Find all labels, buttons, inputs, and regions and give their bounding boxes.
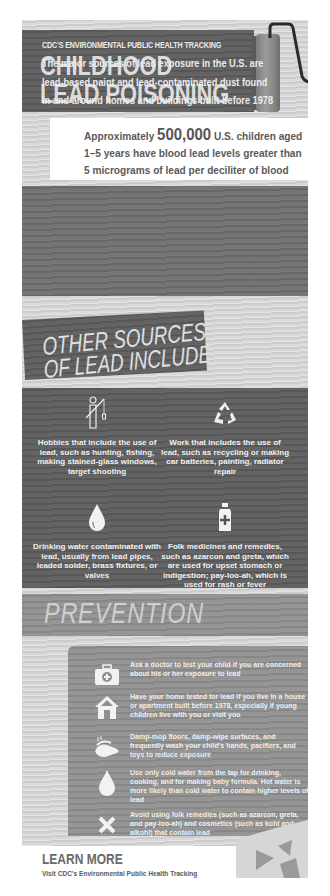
prevention-text: Damp-mop floors, damp-wipe surfaces, and… — [130, 732, 308, 759]
house-icon — [92, 692, 122, 722]
learn-more-title: LEARN MORE — [42, 850, 123, 867]
source-text: Hobbies that include the use of lead, su… — [32, 438, 162, 476]
source-item-water: Drinking water contaminated with lead, u… — [32, 500, 162, 580]
source-text: Drinking water contaminated with lead, u… — [32, 542, 162, 580]
stat-box: Approximately 500,000 U.S. children aged… — [50, 118, 308, 180]
source-item-work: Work that includes the use of lead, such… — [160, 396, 290, 476]
medicine-bottle-icon — [210, 500, 240, 534]
other-sources-panel: Hobbies that include the use of lead, su… — [22, 388, 308, 588]
cdc-logo-fragment-icon — [236, 820, 308, 878]
prevention-text: Have your home tested for lead if you li… — [130, 692, 308, 719]
stat-number: 500,000 — [157, 125, 211, 144]
infographic: CDC'S ENVIRONMENTAL PUBLIC HEALTH TRACKI… — [22, 20, 308, 878]
x-icon — [92, 810, 122, 840]
learn-more-line1: Visit CDC's Environmental Public Health … — [42, 870, 197, 877]
source-text: Work that includes the use of lead, such… — [160, 438, 290, 476]
source-text: Folk medicines and remedies, such as aza… — [160, 542, 290, 590]
prevention-title: PREVENTION — [44, 598, 204, 628]
prevention-item: Ask a doctor to test your child if you a… — [92, 660, 304, 696]
header-subtitle: CDC'S ENVIRONMENTAL PUBLIC HEALTH TRACKI… — [42, 40, 221, 50]
major-sources-band — [22, 186, 308, 296]
source-item-folk-medicine: Folk medicines and remedies, such as aza… — [160, 500, 290, 590]
stat-text: Approximately 500,000 U.S. children aged… — [84, 126, 281, 179]
prevention-item: Damp-mop floors, damp-wipe surfaces, and… — [92, 732, 304, 768]
other-sources-title: OTHER SOURCES OF LEAD INCLUDE — [42, 319, 211, 380]
water-drop-icon — [92, 768, 122, 798]
prevention-text: Ask a doctor to test your child if you a… — [130, 660, 308, 678]
prevention-item: Have your home tested for lead if you li… — [92, 692, 304, 728]
water-drop-icon — [82, 500, 112, 534]
major-sources-text: The major sources of lead exposure in th… — [42, 54, 273, 110]
hand-washing-icon — [92, 732, 122, 762]
source-item-hobbies: Hobbies that include the use of lead, su… — [32, 396, 162, 476]
prevention-item: Use only cold water from the tap for dri… — [92, 768, 304, 804]
fishing-person-icon — [82, 396, 112, 430]
recycle-icon — [210, 396, 240, 430]
prevention-text: Use only cold water from the tap for dri… — [130, 768, 308, 804]
first-aid-kit-icon — [92, 660, 122, 690]
